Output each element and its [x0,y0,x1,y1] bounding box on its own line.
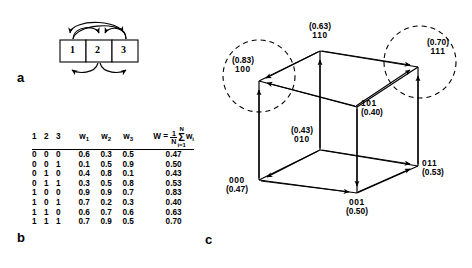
cell-w2: 0.9 [95,188,117,198]
cell-W: 0.47 [139,150,194,160]
cell-bits: 1 0 1 [32,198,73,208]
cell-W: 0.63 [139,208,194,218]
panel-b-letter: b [17,230,25,245]
vertex-label-000: 000 (0.47) [216,176,258,195]
weight-table-wrap: 1 2 3 w1 w2 w3 W = 1 N N [32,126,194,227]
cell-w2: 0.5 [95,179,117,189]
figure-stage: 1 2 3 a b c 1 2 3 w1 w2 w3 W = 1 [0,0,472,268]
cell-bits: 1 0 0 [32,188,73,198]
vertex-label-110: (0.63) 110 [296,22,344,41]
cell-w1: 0.9 [73,188,95,198]
vertex-label-101: 101 (0.40) [361,99,403,118]
vertex-code-100: 100 [222,65,264,74]
unit-label-3: 3 [121,44,126,55]
cell-w2: 0.5 [95,160,117,170]
table-row: 0 0 0 0.6 0.3 0.5 0.47 [32,150,194,160]
cell-w3: 0.3 [117,198,139,208]
cell-w3: 0.8 [117,179,139,189]
lower-connection-arcs [72,63,126,72]
table-row: 1 0 1 0.7 0.2 0.3 0.40 [32,198,194,208]
vertex-value-001: (0.50) [335,207,379,216]
cell-w3: 0.6 [117,208,139,218]
table-row: 0 0 1 0.1 0.5 0.9 0.50 [32,160,194,170]
table-row: 1 0 0 0.9 0.9 0.7 0.83 [32,188,194,198]
weight-table-head: 1 2 3 w1 w2 w3 W = 1 N N [32,126,194,150]
cell-w1: 0.4 [73,169,95,179]
cell-W: 0.83 [139,188,194,198]
cell-w3: 0.5 [117,150,139,160]
table-row: 1 1 1 0.7 0.9 0.5 0.70 [32,217,194,227]
vertex-label-100: (0.83) 100 [222,56,264,75]
cube-edges [259,51,418,193]
cell-w1: 0.3 [73,179,95,189]
vertex-label-111: (0.70) 111 [416,38,460,57]
col-header-W: W = 1 N N Σ i=1 wi [139,126,194,150]
unit-label-2: 2 [95,44,100,55]
vertex-label-011: 011 (0.53) [422,159,466,178]
cell-bits: 0 1 0 [32,169,73,179]
vertex-label-001: 001 (0.50) [335,198,379,217]
cell-W: 0.53 [139,179,194,189]
one-over-N-fraction: 1 N [170,130,177,145]
vertex-value-011: (0.53) [422,168,466,177]
table-row: 0 1 1 0.3 0.5 0.8 0.53 [32,179,194,189]
vertex-label-010: (0.43) 010 [281,126,323,145]
cell-w3: 0.5 [117,217,139,227]
panel-a-letter: a [17,70,24,85]
vertex-value-000: (0.47) [216,185,258,194]
weight-table-body: 0 0 0 0.6 0.3 0.5 0.47 0 0 1 0.1 0.5 0.9… [32,150,194,227]
col-header-w3: w3 [117,126,139,150]
vertex-code-110: 110 [296,31,344,40]
weight-table: 1 2 3 w1 w2 w3 W = 1 N N [32,126,194,227]
state-transition-arrows [259,51,418,192]
cell-w1: 0.6 [73,150,95,160]
col-header-w2: w2 [95,126,117,150]
cell-W: 0.70 [139,217,194,227]
table-row: 0 1 0 0.4 0.8 0.1 0.43 [32,169,194,179]
cell-w2: 0.8 [95,169,117,179]
cell-w2: 0.2 [95,198,117,208]
cell-W: 0.40 [139,198,194,208]
table-header-row: 1 2 3 w1 w2 w3 W = 1 N N [32,126,194,150]
cell-W: 0.43 [139,169,194,179]
cell-w1: 0.7 [73,198,95,208]
cell-w2: 0.3 [95,150,117,160]
cell-W: 0.50 [139,160,194,170]
cell-bits: 0 1 1 [32,179,73,189]
panel-c-letter: c [205,232,212,247]
cell-w3: 0.7 [117,188,139,198]
vertex-code-111: 111 [416,47,460,56]
cell-w3: 0.9 [117,160,139,170]
cell-w1: 0.1 [73,160,95,170]
cell-bits: 0 0 1 [32,160,73,170]
cell-bits: 1 1 0 [32,208,73,218]
upper-connection-arcs [70,22,126,39]
vertex-code-010: 010 [281,135,323,144]
cell-bits: 0 0 0 [32,150,73,160]
cell-bits: 1 1 1 [32,217,73,227]
col-header-w1: w1 [73,126,95,150]
cell-w3: 0.1 [117,169,139,179]
summation-symbol: N Σ i=1 [177,126,186,148]
unit-label-1: 1 [70,44,75,55]
cell-w2: 0.9 [95,217,117,227]
table-row: 1 1 0 0.6 0.7 0.6 0.63 [32,208,194,218]
cell-w2: 0.7 [95,208,117,218]
cell-w1: 0.6 [73,208,95,218]
col-header-bits: 1 2 3 [32,126,73,150]
cell-w1: 0.7 [73,217,95,227]
vertex-value-101: (0.40) [361,108,403,117]
